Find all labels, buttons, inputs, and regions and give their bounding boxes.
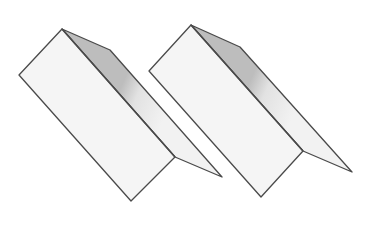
figure-canvas (0, 0, 374, 228)
shapes-layer (19, 25, 352, 201)
right-folded-sheet (149, 25, 352, 197)
folded-sheets-figure (0, 0, 374, 228)
